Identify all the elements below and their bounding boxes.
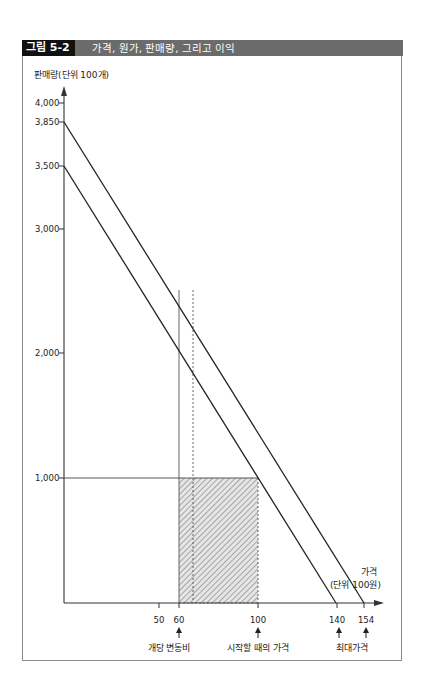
y-tick-3850: 3,850 xyxy=(35,117,59,127)
x-tick-60: 60 xyxy=(174,615,185,625)
x-tick-154: 154 xyxy=(358,615,374,625)
y-tick-3000: 3,000 xyxy=(35,224,59,234)
y-tick-1000: 1,000 xyxy=(35,473,59,483)
chart: 판매량(단위 100개) 4,000 3,850 3,500 3,000 2,0… xyxy=(0,0,425,692)
x-axis-arrow-icon xyxy=(374,600,384,606)
x-tick-100: 100 xyxy=(250,615,266,625)
y-ticks xyxy=(59,103,64,478)
shaded-profit-region xyxy=(179,478,258,603)
x-axis-unit: (단위 100원) xyxy=(330,580,381,590)
y-axis-label: 판매량(단위 100개) xyxy=(34,69,109,80)
annotation-arrows xyxy=(176,627,369,638)
x-tick-50: 50 xyxy=(154,615,165,625)
x-ticks xyxy=(159,603,364,608)
x-tick-140: 140 xyxy=(329,615,345,625)
y-tick-4000: 4,000 xyxy=(35,98,59,108)
y-axis-arrow-icon xyxy=(61,86,67,96)
annotation-starting-price: 시작할 때의 가격 xyxy=(227,642,289,653)
annotation-max-price: 최대가격 xyxy=(336,642,368,653)
y-tick-2000: 2,000 xyxy=(35,348,59,358)
y-tick-3500: 3,500 xyxy=(35,161,59,171)
annotation-unit-variable-cost: 개당 변동비 xyxy=(148,643,191,653)
x-axis-label: 가격 xyxy=(361,566,377,577)
